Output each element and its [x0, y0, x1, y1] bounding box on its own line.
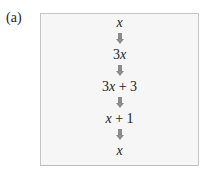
step-4-expression: x + 1 [105, 111, 133, 127]
down-arrow-icon [115, 63, 125, 79]
flow-diagram: x 3x 3x + 3 x + 1 x [41, 14, 198, 159]
down-arrow-icon [115, 95, 125, 111]
down-arrow-icon [115, 31, 125, 47]
step-5-expression: x [116, 143, 122, 159]
flow-box: x 3x 3x + 3 x + 1 x [40, 13, 199, 166]
step-1-expression: x [116, 15, 122, 31]
down-arrow-icon [115, 127, 125, 143]
step-2-expression: 3x [113, 47, 126, 63]
figure-label: (a) [6, 10, 22, 26]
step-3-expression: 3x + 3 [102, 79, 137, 95]
